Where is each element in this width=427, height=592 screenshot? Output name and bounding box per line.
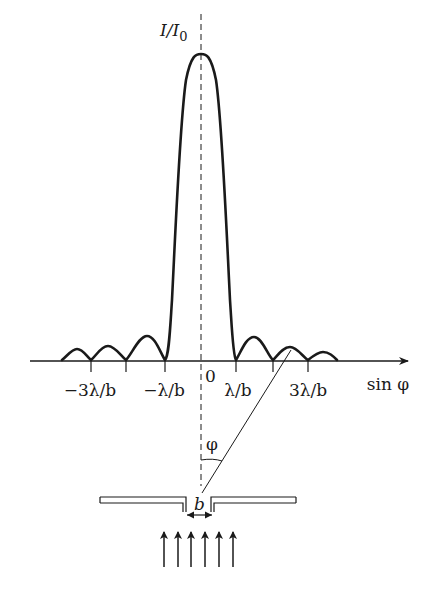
- tick-label-minus-3: −3λ/b: [64, 380, 117, 400]
- incident-light-arrows: [164, 532, 233, 567]
- angle-label: φ: [206, 434, 218, 454]
- diffraction-diagram: I/I0 0 −3λ/b −λ/b λ/b 3λ/b sin φ φ b: [0, 0, 427, 592]
- slit-width-label: b: [194, 494, 205, 514]
- x-axis-label: sin φ: [367, 374, 410, 394]
- diagram-svg: I/I0 0 −3λ/b −λ/b λ/b 3λ/b sin φ φ b: [0, 0, 427, 592]
- tick-label-minus-1: −λ/b: [143, 380, 185, 400]
- origin-label: 0: [205, 366, 216, 386]
- angle-arc: [201, 459, 222, 461]
- y-axis-label: I/I0: [159, 20, 187, 44]
- intensity-curve: [62, 54, 337, 360]
- tick-label-plus-1: λ/b: [224, 380, 252, 400]
- tick-marks: [91, 361, 308, 372]
- tick-label-plus-3: 3λ/b: [289, 380, 327, 400]
